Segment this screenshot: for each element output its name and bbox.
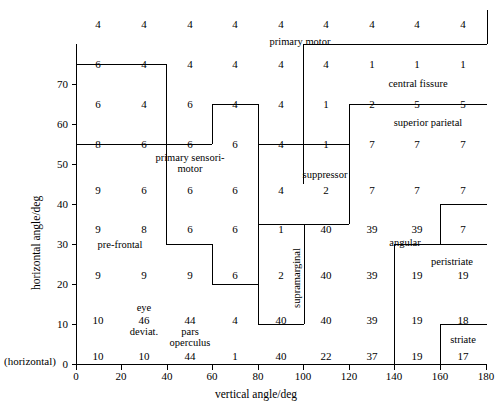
cell-value: 40 — [321, 270, 332, 281]
cell-value: 10 — [93, 351, 104, 362]
cell-value: 4 — [278, 185, 284, 196]
region-label-primary-sensorimotor-line1: primary sensori- — [155, 152, 224, 164]
cell-value: 2 — [278, 270, 284, 281]
region-label-striate: striate — [450, 334, 476, 346]
x-tick-label-0: 0 — [63, 371, 89, 382]
y-axis-title: horizontal angle/deg — [30, 196, 42, 290]
cell-value: 4 — [187, 59, 193, 70]
cell-value: 1 — [369, 59, 375, 70]
cell-value: 1 — [414, 59, 420, 70]
cell-value: 7 — [369, 139, 375, 150]
x-tick-label-120: 120 — [336, 371, 362, 382]
cell-value: 39 — [367, 270, 378, 281]
x-tick-label-180: 180 — [473, 371, 499, 382]
cell-value: 4 — [232, 59, 238, 70]
cell-value: 4 — [232, 99, 238, 110]
cell-value: 44 — [185, 315, 196, 326]
region-label-peristriate: peristriate — [431, 256, 473, 268]
cell-value: 4 — [323, 19, 329, 30]
cell-value: 5 — [414, 99, 420, 110]
cell-value: 7 — [460, 185, 466, 196]
cell-value: 7 — [414, 185, 420, 196]
cell-value: 4 — [323, 59, 329, 70]
cell-value: 7 — [460, 139, 466, 150]
cell-value: 4 — [278, 59, 284, 70]
cell-value: 7 — [414, 139, 420, 150]
cell-value: 4 — [95, 19, 101, 30]
region-label-primary-motor: primary motor — [270, 36, 331, 48]
boundary-seg — [440, 324, 441, 364]
region-label-pre-frontal: pre-frontal — [98, 239, 143, 251]
y-tick-mark — [72, 124, 77, 125]
cell-value: 10 — [139, 351, 150, 362]
cell-value: 19 — [412, 270, 423, 281]
boundary-seg — [166, 244, 212, 245]
cell-value: 6 — [187, 185, 193, 196]
y-tick-mark — [72, 324, 77, 325]
cell-value: 39 — [367, 224, 378, 235]
boundary-seg — [258, 224, 259, 324]
y-tick-label-20: 20 — [42, 279, 68, 290]
cell-value: 6 — [141, 139, 147, 150]
cell-value: 10 — [93, 315, 104, 326]
boundary-seg — [212, 104, 213, 144]
cell-value: 44 — [185, 351, 196, 362]
cell-value: 7 — [369, 185, 375, 196]
cell-value: 4 — [414, 19, 420, 30]
cell-value: 1 — [232, 351, 238, 362]
boundary-seg — [349, 144, 350, 224]
cell-value: 6 — [232, 185, 238, 196]
y-tick-label-10: 10 — [42, 319, 68, 330]
cell-value: 46 — [139, 315, 150, 326]
cell-value: 6 — [232, 139, 238, 150]
x-axis-title: vertical angle/deg — [215, 388, 297, 400]
y-tick-label-30: 30 — [42, 239, 68, 250]
cell-value: 6 — [232, 224, 238, 235]
boundary-seg — [487, 10, 488, 44]
cell-value: 6 — [187, 224, 193, 235]
boundary-seg — [303, 44, 487, 45]
cell-value: 4 — [460, 19, 466, 30]
boundary-seg — [212, 284, 258, 285]
cell-value: 39 — [367, 315, 378, 326]
cell-value: 19 — [412, 351, 423, 362]
cell-value: 1 — [278, 224, 284, 235]
cell-value: 4 — [278, 139, 284, 150]
boundary-seg — [76, 64, 166, 65]
cell-value: 1 — [323, 139, 329, 150]
boundary-seg — [349, 104, 350, 144]
region-label-suppressor: suppressor — [303, 169, 348, 181]
cell-value: 4 — [232, 315, 238, 326]
x-tick-label-60: 60 — [199, 371, 225, 382]
cell-value: 18 — [458, 315, 469, 326]
cell-value: 9 — [95, 224, 101, 235]
cell-value: 22 — [321, 351, 332, 362]
region-label-deviat: deviat. — [130, 326, 158, 338]
x-tick-label-40: 40 — [154, 371, 180, 382]
boundary-seg — [303, 84, 304, 144]
cell-value: 6 — [95, 99, 101, 110]
cell-value: 5 — [460, 99, 466, 110]
x-axis-line — [76, 364, 487, 365]
cell-value: 4 — [369, 19, 375, 30]
y-tick-mark — [72, 244, 77, 245]
y-tick-mark — [72, 164, 77, 165]
cell-value: 4 — [187, 19, 193, 30]
region-label-operculus: operculus — [170, 337, 211, 349]
y-tick-label-70: 70 — [42, 79, 68, 90]
cell-value: 4 — [278, 99, 284, 110]
cell-value: 9 — [141, 270, 147, 281]
cell-value: 6 — [187, 139, 193, 150]
region-label-central-fissure: central fissure — [388, 78, 447, 90]
cell-value: 6 — [232, 270, 238, 281]
cell-value: 39 — [412, 224, 423, 235]
cell-value: 8 — [95, 139, 101, 150]
boundary-seg — [304, 224, 305, 324]
region-label-supramarginal: supramarginal — [291, 248, 303, 308]
cell-value: 19 — [458, 270, 469, 281]
y-tick-mark — [72, 84, 77, 85]
region-label-angular: angular — [389, 237, 421, 249]
cell-value: 9 — [95, 185, 101, 196]
y-tick-label-60: 60 — [42, 119, 68, 130]
